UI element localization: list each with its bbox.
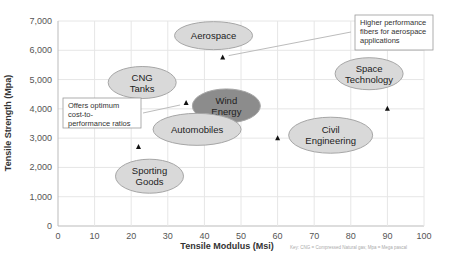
annotation-text: cost-to- (68, 110, 94, 119)
x-tick-label: 50 (236, 231, 246, 241)
x-tick-label: 10 (90, 231, 100, 241)
x-tick-label: 90 (382, 231, 392, 241)
y-axis-label: Tensile Strength (Mpa) (3, 75, 13, 171)
data-point-marker (136, 144, 141, 149)
application-ellipse: CNGTanks (108, 67, 176, 99)
data-point-marker (184, 100, 189, 105)
y-tick-label: 5,000 (29, 75, 52, 85)
application-label: Civil (322, 124, 340, 135)
data-point-marker (220, 55, 225, 60)
x-tick-label: 80 (346, 231, 356, 241)
application-label: Automobiles (171, 124, 224, 135)
application-label: Technology (345, 74, 393, 85)
x-axis-ticks: 0102030405060708090100 (55, 231, 431, 241)
annotation-box: Offers optimumcost-to-performance ratios (63, 98, 141, 128)
key-footnote: Key: CNG = Compressed Natural gas; Mpa =… (290, 245, 407, 250)
y-tick-label: 4,000 (29, 104, 52, 114)
y-tick-label: 0 (47, 221, 52, 231)
x-tick-label: 30 (163, 231, 173, 241)
application-label: Goods (136, 176, 164, 187)
application-ellipse: Automobiles (153, 113, 241, 145)
annotation-text: Higher performance (360, 18, 426, 27)
y-tick-label: 3,000 (29, 133, 52, 143)
application-label: Tanks (130, 83, 155, 94)
x-tick-label: 70 (309, 231, 319, 241)
y-tick-label: 7,000 (29, 16, 52, 26)
scatter-chart: 01,0002,0003,0004,0005,0006,0007,000 010… (0, 0, 449, 266)
application-label: CNG (132, 72, 153, 83)
application-ellipse: SpaceTechnology (335, 58, 403, 90)
x-tick-label: 20 (126, 231, 136, 241)
application-ellipse: CivilEngineering (289, 117, 373, 153)
application-label: Space (356, 63, 383, 74)
x-tick-label: 60 (273, 231, 283, 241)
y-axis-ticks: 01,0002,0003,0004,0005,0006,0007,000 (29, 16, 52, 231)
x-tick-label: 100 (416, 231, 431, 241)
annotation-text: performance ratios (68, 119, 131, 128)
annotation-box: Higher performancefibers for aerospaceap… (355, 15, 433, 50)
application-label: Wind (216, 95, 238, 106)
application-ellipse: SportingGoods (116, 159, 184, 193)
x-tick-label: 40 (199, 231, 209, 241)
application-label: Sporting (132, 165, 167, 176)
y-tick-label: 2,000 (29, 162, 52, 172)
annotation-text: fibers for aerospace (360, 27, 426, 36)
x-tick-label: 0 (55, 231, 60, 241)
annotation-text: applications (360, 36, 400, 45)
application-label: Engineering (305, 135, 356, 146)
annotation-text: Offers optimum (68, 101, 119, 110)
y-tick-label: 6,000 (29, 45, 52, 55)
x-axis-label: Tensile Modulus (Msi) (180, 241, 273, 251)
application-label: Aerospace (191, 30, 236, 41)
y-tick-label: 1,000 (29, 192, 52, 202)
application-ellipse: Aerospace (175, 22, 253, 50)
